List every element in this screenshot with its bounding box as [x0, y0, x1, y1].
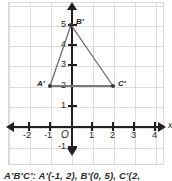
vertex-label-c-prime: C′: [118, 80, 126, 88]
vertex-point-a-prime: [48, 84, 52, 88]
x-axis-name-label: x: [168, 121, 172, 130]
triangle-a-b-c-prime: [8, 2, 164, 165]
vertex-point-c-prime: [111, 84, 115, 88]
vertex-label-a-prime: A′: [37, 80, 45, 88]
vertex-label-b-prime: B′: [76, 18, 84, 26]
figure-caption: A′B′C′: A′(-1, 2), B′(0, 5), C′(2,: [4, 170, 172, 181]
triangle-legs: [50, 25, 113, 86]
coordinate-plane-figure: -2 -1 1 2 3 4 O 5 4 3 2 1 -1 x A′ B′ C′ …: [0, 0, 172, 181]
vertex-point-b-prime: [69, 23, 73, 27]
graph-plate: -2 -1 1 2 3 4 O 5 4 3 2 1 -1 x A′ B′ C′: [8, 2, 164, 165]
